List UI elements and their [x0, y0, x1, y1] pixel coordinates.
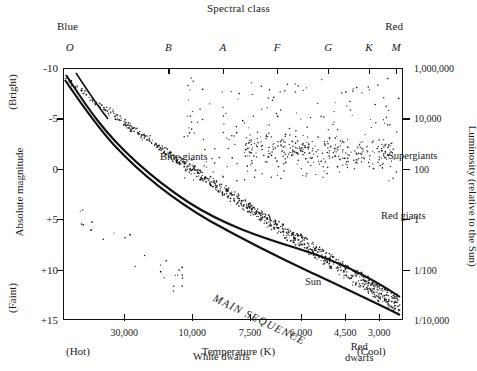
star-point	[372, 142, 373, 143]
star-point	[385, 152, 387, 154]
star-point	[81, 223, 83, 225]
star-point	[223, 132, 224, 133]
main-sequence-scatter-group	[65, 78, 400, 314]
star-point	[300, 241, 302, 243]
star-point	[277, 145, 279, 147]
star-point	[313, 162, 314, 163]
white-dwarfs-scatter-group	[80, 209, 184, 291]
star-point	[276, 113, 278, 115]
star-point	[291, 155, 292, 156]
star-point	[210, 176, 212, 178]
star-point	[246, 205, 247, 206]
star-point	[342, 149, 343, 150]
star-point	[375, 122, 376, 123]
star-point	[204, 176, 205, 177]
star-point	[308, 146, 310, 148]
star-point	[329, 268, 330, 269]
star-point	[382, 290, 383, 291]
star-point	[155, 142, 156, 143]
star-point	[261, 85, 263, 87]
star-point	[189, 132, 191, 134]
star-point	[274, 143, 275, 144]
y-tick--10: -10	[16, 62, 58, 74]
star-point	[280, 178, 282, 180]
star-point	[302, 154, 304, 156]
star-point	[310, 165, 311, 166]
star-point	[385, 106, 386, 107]
star-point	[359, 276, 360, 277]
star-point	[391, 307, 392, 308]
star-point	[253, 214, 254, 215]
star-point	[222, 91, 223, 92]
star-point	[369, 89, 370, 90]
star-point	[276, 160, 278, 162]
star-point	[125, 122, 127, 124]
star-point	[184, 177, 185, 178]
star-point	[300, 148, 301, 149]
star-point	[241, 204, 242, 205]
star-point	[181, 274, 183, 276]
star-point	[228, 139, 229, 140]
star-point	[363, 149, 364, 150]
star-point	[230, 192, 231, 193]
star-point	[282, 228, 284, 230]
chart-top-title: Spectral class	[0, 2, 477, 14]
star-point	[219, 185, 220, 186]
star-point	[247, 155, 248, 156]
star-point	[379, 156, 380, 157]
star-point	[321, 254, 323, 256]
star-point	[291, 141, 293, 143]
star-point	[295, 130, 296, 131]
star-point	[370, 284, 372, 286]
star-point	[131, 127, 132, 128]
star-point	[320, 161, 321, 162]
star-point	[213, 171, 214, 172]
star-point	[193, 81, 194, 82]
star-point	[65, 78, 67, 80]
star-point	[197, 122, 198, 123]
star-point	[128, 122, 130, 124]
star-point	[334, 150, 335, 151]
star-point	[356, 282, 358, 284]
star-point	[276, 227, 277, 228]
star-point	[297, 85, 299, 87]
star-point	[312, 141, 313, 142]
star-point	[325, 255, 327, 257]
star-point	[304, 237, 306, 239]
star-point	[342, 151, 343, 152]
spectral-tick-G: G	[324, 41, 332, 53]
star-point	[249, 142, 250, 143]
star-point	[202, 88, 204, 90]
star-point	[375, 296, 377, 298]
star-point	[343, 141, 345, 143]
star-point	[148, 137, 149, 138]
star-point	[221, 184, 223, 186]
star-point	[342, 158, 344, 160]
star-point	[114, 116, 116, 118]
star-point	[107, 110, 109, 112]
star-point	[277, 175, 278, 176]
star-point	[357, 162, 358, 163]
star-point	[362, 141, 363, 142]
star-point	[238, 195, 239, 196]
star-point	[383, 153, 385, 155]
star-point	[246, 165, 248, 167]
star-point	[297, 140, 298, 141]
star-point	[373, 168, 375, 170]
star-point	[91, 221, 93, 223]
star-point	[370, 291, 371, 292]
star-point	[117, 117, 118, 118]
star-point	[243, 200, 244, 201]
star-point	[329, 262, 331, 264]
star-point	[317, 103, 318, 104]
star-point	[267, 124, 268, 125]
star-point	[264, 216, 265, 217]
star-point	[192, 169, 194, 171]
star-point	[394, 303, 395, 304]
star-point	[130, 130, 132, 132]
star-point	[283, 235, 284, 236]
star-point	[366, 280, 368, 282]
y-tick--5: -5	[16, 112, 58, 124]
star-point	[278, 221, 280, 223]
star-point	[115, 118, 117, 120]
